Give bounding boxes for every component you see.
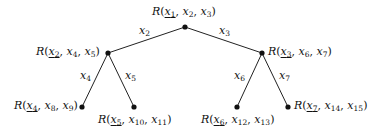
node-label-right: R(x3, x6, x7)	[268, 46, 332, 61]
node-dot-lr	[131, 104, 136, 109]
edge-label-x6: x6	[234, 70, 245, 85]
node-dot-ll	[79, 104, 84, 109]
node-label-rl: R(x6, x12, x13)	[201, 114, 274, 129]
node-label-root: R(x1, x2, x3)	[152, 6, 216, 21]
node-label-ll: R(x4, x8, x9)	[14, 100, 78, 115]
edge-label-x3: x3	[219, 25, 230, 40]
node-dot-left	[105, 50, 110, 55]
edge-label-x7: x7	[279, 70, 290, 85]
edge-label-x2: x2	[139, 25, 150, 40]
edge-label-x5: x5	[125, 70, 136, 85]
node-dot-rr	[285, 104, 290, 109]
node-dot-rl	[234, 104, 239, 109]
node-dot-right	[259, 50, 264, 55]
node-label-lr: R(x5, x10, x11)	[98, 114, 171, 129]
node-dot-root	[182, 24, 187, 29]
node-label-rr: R(x7, x14, x15)	[294, 100, 367, 115]
node-label-left: R(x2, x4, x5)	[36, 46, 100, 61]
edge-label-x4: x4	[80, 70, 91, 85]
